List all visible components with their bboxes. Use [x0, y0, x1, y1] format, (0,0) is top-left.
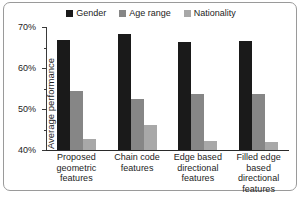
- legend-swatch-icon: [184, 10, 191, 17]
- x-axis-category-label: Edge based directional features: [168, 152, 229, 194]
- bar-nationality[interactable]: [265, 142, 278, 150]
- x-axis-category-label: Chain code features: [107, 152, 168, 194]
- bar-set: [168, 27, 229, 150]
- bar-set: [228, 27, 289, 150]
- bar-group: [168, 27, 229, 150]
- y-axis-tick-label: 60%: [18, 63, 36, 73]
- bar-set: [107, 27, 168, 150]
- legend-item-label: Nationality: [194, 9, 236, 18]
- bar-age-range[interactable]: [70, 91, 83, 150]
- bar-gender[interactable]: [57, 40, 70, 150]
- bar-age-range[interactable]: [131, 99, 144, 150]
- bar-group: [107, 27, 168, 150]
- bar-nationality[interactable]: [83, 139, 96, 150]
- bar-age-range[interactable]: [191, 94, 204, 150]
- plot-area: Average performance 40%50%60%70%: [46, 27, 289, 150]
- y-axis-tick-label: 50%: [18, 104, 36, 114]
- bar-gender[interactable]: [239, 41, 252, 150]
- bar-set: [46, 27, 107, 150]
- bar-nationality[interactable]: [144, 125, 157, 150]
- x-axis-category-label: Filled edge based directional features: [228, 152, 289, 194]
- x-axis-category-label: Proposed geometric features: [46, 152, 107, 194]
- y-axis-tick-label: 40%: [18, 145, 36, 155]
- legend-item[interactable]: Gender: [66, 9, 106, 18]
- bar-group: [228, 27, 289, 150]
- y-axis-tick: 40%: [42, 150, 46, 151]
- bar-gender[interactable]: [178, 42, 191, 150]
- bar-groups: [46, 27, 289, 150]
- figure-container: GenderAge rangeNationality Average perfo…: [0, 0, 302, 198]
- bar-gender[interactable]: [118, 34, 131, 150]
- legend-item[interactable]: Age range: [119, 9, 171, 18]
- legend-item[interactable]: Nationality: [184, 9, 236, 18]
- legend-item-label: Gender: [76, 9, 106, 18]
- bar-age-range[interactable]: [252, 94, 265, 150]
- legend-swatch-icon: [119, 10, 126, 17]
- legend-item-label: Age range: [129, 9, 171, 18]
- legend-swatch-icon: [66, 10, 73, 17]
- y-axis-tick-label: 70%: [18, 22, 36, 32]
- bar-nationality[interactable]: [204, 141, 217, 150]
- chart-legend: GenderAge rangeNationality: [0, 9, 302, 18]
- bar-group: [46, 27, 107, 150]
- x-axis-labels: Proposed geometric featuresChain code fe…: [46, 152, 289, 194]
